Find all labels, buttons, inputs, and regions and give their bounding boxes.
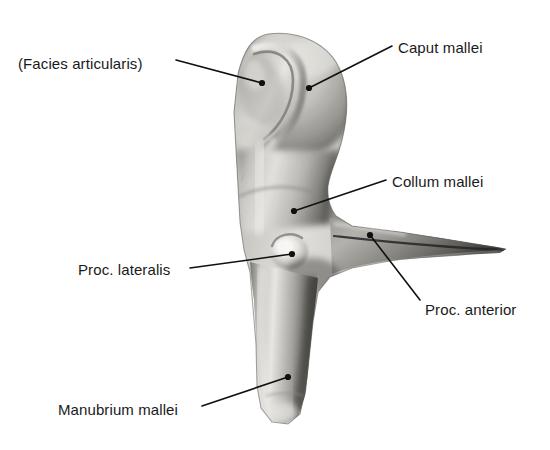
leader-dot-proc-anterior xyxy=(367,232,373,238)
label-caput-mallei: Caput mallei xyxy=(398,40,483,55)
malleus-bone xyxy=(224,25,515,435)
figure-canvas: (Facies articularis)Caput malleiCollum m… xyxy=(0,0,550,450)
label-proc-anterior: Proc. anterior xyxy=(425,302,516,317)
label-collum-mallei: Collum mallei xyxy=(392,174,483,189)
leader-dot-proc-lateralis xyxy=(289,251,295,257)
leader-dot-collum-mallei xyxy=(291,208,297,214)
label-proc-lateralis: Proc. lateralis xyxy=(78,262,170,277)
leader-dot-facies-articularis xyxy=(259,80,265,86)
label-facies-articularis: (Facies articularis) xyxy=(18,56,143,71)
leader-dot-caput-mallei xyxy=(306,85,312,91)
leader-dot-manubrium-mallei xyxy=(285,374,291,380)
label-manubrium-mallei: Manubrium mallei xyxy=(58,402,178,417)
grain-veil xyxy=(225,25,515,435)
